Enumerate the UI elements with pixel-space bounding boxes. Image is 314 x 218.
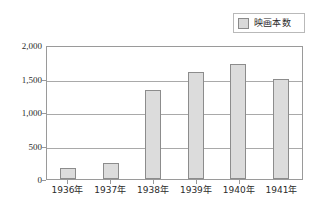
plot-area xyxy=(46,46,303,180)
bar-1938 xyxy=(145,90,161,179)
bar-slot xyxy=(132,47,174,179)
bar-slot xyxy=(47,47,89,179)
y-axis-labels: 2,000 1,500 1,000 500 0 xyxy=(0,46,42,180)
bar-1936 xyxy=(60,168,76,179)
bar-1937 xyxy=(103,163,119,179)
x-axis-labels: 1936年 1937年 1938年 1939年 1940年 1941年 xyxy=(46,185,303,195)
chart-legend: 映画本数 xyxy=(233,13,305,33)
y-tick-label-1500: 1,500 xyxy=(4,76,42,85)
x-tick-mark-4 xyxy=(196,180,197,184)
bar-slot xyxy=(90,47,132,179)
y-tick-label-500: 500 xyxy=(4,143,42,152)
y-tick-label-0: 0 xyxy=(4,176,42,185)
bar-slot xyxy=(260,47,302,179)
x-tick-label-1939: 1939年 xyxy=(175,185,218,195)
bar-series xyxy=(47,47,302,179)
bar-slot xyxy=(217,47,259,179)
bar-1941 xyxy=(273,79,289,179)
bar-1939 xyxy=(188,72,204,179)
x-tick-label-1936: 1936年 xyxy=(46,185,89,195)
x-tick-mark-1 xyxy=(67,180,68,184)
x-tick-mark-2 xyxy=(110,180,111,184)
bar-chart: 映画本数 2,000 1,500 1,000 500 0 1936年 1937 xyxy=(0,0,314,218)
x-tick-label-1941: 1941年 xyxy=(260,185,303,195)
bar-slot xyxy=(175,47,217,179)
y-tick-label-1000: 1,000 xyxy=(4,109,42,118)
x-tick-mark-3 xyxy=(153,180,154,184)
y-tick-mark-0 xyxy=(42,180,46,181)
bar-1940 xyxy=(230,64,246,180)
legend-swatch-icon xyxy=(238,18,249,29)
legend-label: 映画本数 xyxy=(254,18,291,29)
x-tick-label-1938: 1938年 xyxy=(132,185,175,195)
x-tick-label-1940: 1940年 xyxy=(217,185,260,195)
x-tick-label-1937: 1937年 xyxy=(89,185,132,195)
y-tick-label-2000: 2,000 xyxy=(4,42,42,51)
x-tick-mark-5 xyxy=(239,180,240,184)
